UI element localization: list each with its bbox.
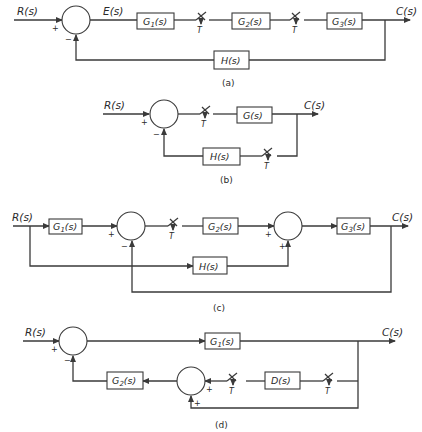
feedback-line: [73, 356, 107, 381]
svg-text:T: T: [169, 232, 175, 241]
input-label: R(s): [25, 326, 46, 338]
minus-sign: −: [121, 242, 128, 251]
sampler-switch-icon: T: [227, 373, 237, 396]
plus-sign: +: [108, 230, 115, 239]
plus-sign: +: [51, 345, 58, 354]
panel-b: R(s) + − T G(s) C(s) T H(s) (b): [103, 99, 325, 185]
plus-sign: +: [279, 242, 286, 251]
caption-b: (b): [220, 175, 233, 185]
panel-a: R(s) + − E(s) G1(s) T G2(s) T G3(s) C(s): [14, 5, 417, 88]
block-d-label: D(s): [271, 375, 291, 386]
minus-sign: −: [64, 356, 71, 365]
sampler-switch-icon: T: [196, 12, 206, 35]
sampler-switch-icon: T: [290, 12, 300, 35]
summing-junction: [150, 100, 178, 128]
output-label: C(s): [382, 326, 403, 338]
panel-c: R(s) G1(s) + − T G2(s) + + G3(s) C(s) H(…: [12, 211, 413, 313]
block-diagrams-figure: R(s) + − E(s) G1(s) T G2(s) T G3(s) C(s): [0, 0, 422, 432]
svg-text:T: T: [264, 162, 270, 171]
output-label: C(s): [304, 99, 325, 111]
block-h-label: H(s): [221, 55, 241, 66]
sampler-switch-icon: T: [323, 373, 333, 396]
svg-text:T: T: [229, 387, 235, 396]
sampler-switch-icon: T: [200, 106, 210, 129]
caption-a: (a): [222, 78, 235, 88]
output-label: C(s): [392, 211, 413, 223]
caption-c: (c): [213, 303, 225, 313]
plus-sign: +: [52, 24, 59, 33]
summing-junction-2: [177, 367, 205, 395]
minus-sign: −: [65, 35, 72, 44]
sampler-switch-icon: T: [168, 218, 178, 241]
summing-junction-1: [117, 212, 145, 240]
error-label: E(s): [103, 5, 123, 17]
summing-junction-1: [59, 327, 87, 355]
summing-junction: [62, 6, 90, 34]
svg-text:T: T: [201, 120, 207, 129]
input-label: R(s): [12, 211, 33, 223]
svg-text:T: T: [292, 26, 298, 35]
output-label: C(s): [396, 5, 417, 17]
svg-text:T: T: [197, 26, 203, 35]
plus-sign: +: [141, 118, 148, 127]
summing-junction-2: [274, 212, 302, 240]
plus-sign: +: [265, 230, 272, 239]
svg-text:T: T: [325, 387, 331, 396]
input-label: R(s): [17, 5, 38, 17]
minus-sign: −: [153, 130, 160, 139]
panel-d: R(s) + − G1(s) C(s) T D(s) T +: [23, 326, 403, 430]
sampler-switch-icon: T: [262, 148, 272, 171]
feedback-line: [164, 129, 203, 156]
input-label: R(s): [104, 99, 125, 111]
block-h-label: H(s): [210, 151, 230, 162]
plus-sign: +: [194, 399, 201, 408]
block-g-label: G(s): [243, 110, 263, 121]
block-h-label: H(s): [199, 261, 219, 272]
caption-d: (d): [215, 420, 228, 430]
feedback-line: [76, 35, 214, 60]
plus-sign: +: [206, 385, 213, 394]
